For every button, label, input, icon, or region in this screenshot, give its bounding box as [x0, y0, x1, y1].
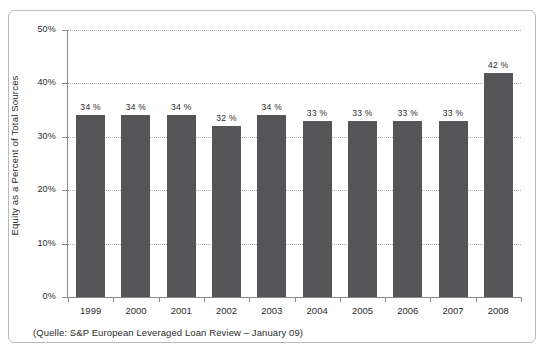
x-axis-tick-mark: [68, 297, 69, 302]
x-axis-tick-label: 2007: [430, 305, 475, 316]
bar: [303, 121, 332, 297]
x-axis-tick-label: 2006: [385, 305, 430, 316]
x-axis-tick-mark: [430, 297, 431, 302]
bar-value-label: 32 %: [204, 113, 249, 123]
x-axis-tick-label: 2002: [204, 305, 249, 316]
y-axis-tick-label: 40%: [37, 77, 56, 87]
x-axis-tick-label: 2005: [340, 305, 385, 316]
x-axis-tick-label: 2001: [159, 305, 204, 316]
source-note: (Quelle: S&P European Leveraged Loan Rev…: [33, 327, 303, 338]
bar: [393, 121, 422, 297]
bar: [348, 121, 377, 297]
bar-value-label: 33 %: [385, 108, 430, 118]
y-axis-tick-label: 20%: [37, 184, 56, 194]
bar-value-label: 34 %: [249, 102, 294, 112]
y-axis-tick-mark: [62, 297, 67, 298]
x-axis-tick-mark: [159, 297, 160, 302]
bar: [167, 115, 196, 297]
gridline: [68, 30, 521, 31]
x-axis-tick-mark: [385, 297, 386, 302]
bar-value-label: 33 %: [430, 108, 475, 118]
bar: [212, 126, 241, 297]
bar-value-label: 33 %: [295, 108, 340, 118]
y-axis-tick-label: 30%: [37, 131, 56, 141]
y-axis-tick-mark: [62, 83, 67, 84]
bar-value-label: 34 %: [159, 102, 204, 112]
x-axis-tick-mark: [521, 297, 522, 302]
x-axis-tick-label: 2000: [113, 305, 158, 316]
x-axis-tick-mark: [249, 297, 250, 302]
y-axis-tick-mark: [62, 190, 67, 191]
bar: [257, 115, 286, 297]
figure-container: Equity as a Percent of Total Sources (Qu…: [0, 0, 548, 359]
bar: [439, 121, 468, 297]
bar-value-label: 42 %: [476, 60, 521, 70]
bar: [76, 115, 105, 297]
y-axis-tick-label: 0%: [43, 291, 56, 301]
bar-value-label: 34 %: [113, 102, 158, 112]
x-axis-tick-mark: [295, 297, 296, 302]
plot-area: [68, 30, 521, 297]
x-axis-tick-mark: [340, 297, 341, 302]
x-axis-tick-label: 2003: [249, 305, 294, 316]
bar-value-label: 34 %: [68, 102, 113, 112]
bar: [484, 73, 513, 297]
bar-value-label: 33 %: [340, 108, 385, 118]
x-axis-tick-label: 1999: [68, 305, 113, 316]
y-axis-tick-mark: [62, 30, 67, 31]
gridline: [68, 83, 521, 84]
x-axis-tick-label: 2008: [476, 305, 521, 316]
y-axis-tick-label: 50%: [37, 24, 56, 34]
bar: [121, 115, 150, 297]
y-axis-tick-mark: [62, 137, 67, 138]
y-axis-tick-label-group: [0, 0, 60, 359]
x-axis-tick-mark: [113, 297, 114, 302]
y-axis-tick-mark: [62, 244, 67, 245]
y-axis-tick-label: 10%: [37, 238, 56, 248]
x-axis-tick-mark: [476, 297, 477, 302]
x-axis-tick-mark: [204, 297, 205, 302]
x-axis-tick-label: 2004: [295, 305, 340, 316]
